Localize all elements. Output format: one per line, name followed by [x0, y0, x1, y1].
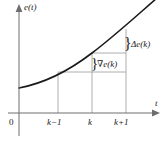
backward-difference-label: ∇e(k) — [97, 60, 117, 69]
x-axis-label: t — [155, 99, 158, 108]
origin-label: 0 — [9, 118, 14, 127]
y-axis — [16, 4, 23, 136]
x-axis — [8, 110, 160, 117]
tick-label-k: k — [88, 118, 92, 127]
difference-operators-figure: e(t) t 0 k−1 k k+1 } Δe(k) } ∇e(k) — [0, 0, 168, 141]
tick-label-k-plus-1: k+1 — [114, 118, 129, 127]
y-axis-label: e(t) — [24, 3, 37, 12]
tick-label-k-minus-1: k−1 — [47, 118, 62, 127]
figure-canvas — [0, 0, 168, 141]
forward-difference-label: Δe(k) — [131, 40, 150, 49]
drop-lines — [58, 29, 126, 113]
